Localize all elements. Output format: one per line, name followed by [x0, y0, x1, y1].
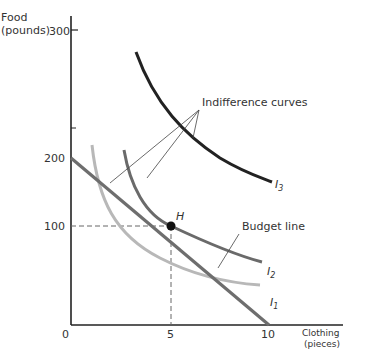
label-i1: I1	[270, 296, 278, 311]
tick-label-300: 300	[49, 25, 70, 38]
indifference-curves-label: Indifference curves	[202, 96, 308, 109]
chart: Food (pounds) Clothing (pieces) 300 200 …	[0, 0, 381, 360]
tick-label-200: 200	[44, 152, 65, 165]
point-h	[167, 222, 176, 231]
label-i3: I3	[275, 178, 283, 193]
y-axis-label-unit: (pounds)	[1, 24, 50, 37]
tick-label-5: 5	[167, 328, 174, 341]
leader-i2	[147, 110, 199, 178]
leader-i1	[110, 110, 199, 183]
x-axis-label: Clothing	[302, 328, 339, 338]
x-axis-label-unit: (pieces)	[304, 339, 340, 349]
label-i2: I2	[267, 265, 275, 280]
y-axis-label: Food	[1, 11, 27, 24]
tick-label-100: 100	[44, 220, 65, 233]
curve-i2	[124, 150, 262, 262]
budget-line-label: Budget line	[242, 220, 305, 233]
tick-label-10: 10	[261, 328, 275, 341]
tick-label-0: 0	[62, 328, 69, 341]
point-h-label: H	[176, 210, 184, 223]
budget-line	[71, 158, 269, 325]
curve-i3	[136, 52, 272, 182]
chart-svg: Food (pounds) Clothing (pieces) 300 200 …	[0, 0, 381, 360]
leader-budget	[218, 234, 239, 268]
